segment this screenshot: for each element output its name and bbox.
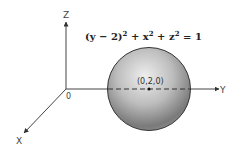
sphere-equation: (y − 2)2 + x2 + z2 = 1: [85, 29, 202, 42]
center-label: (0,2,0): [137, 77, 164, 86]
z-axis-label: Z: [63, 10, 69, 20]
sphere-diagram: Z X Y 0 (0,2,0) (y − 2)2 + x2 + z2 = 1: [0, 0, 235, 154]
x-axis: [24, 89, 66, 133]
x-axis-label: X: [16, 136, 22, 146]
origin-label: 0: [66, 92, 71, 101]
y-axis-label: Y: [219, 85, 226, 95]
center-point: [147, 87, 150, 90]
